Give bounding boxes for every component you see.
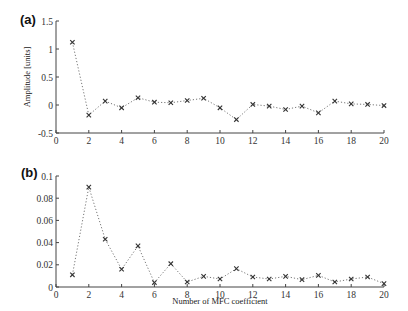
- data-series-b: [70, 185, 386, 286]
- y-tick-label: 0.08: [36, 194, 53, 204]
- x-marker-icon: [218, 277, 222, 281]
- x-marker-icon: [316, 111, 320, 115]
- x-marker-icon: [201, 274, 205, 278]
- x-marker-icon: [87, 113, 91, 117]
- y-tick-label: 1: [48, 45, 53, 55]
- x-tick-label: 4: [119, 136, 124, 146]
- x-tick-label: 6: [152, 290, 157, 300]
- x-marker-icon: [333, 280, 337, 284]
- x-tick-label: 10: [215, 290, 225, 300]
- axes-a: 02468101214161820-0.500.511.5: [38, 17, 389, 147]
- panel-label-b: (b): [21, 165, 38, 180]
- x-marker-icon: [70, 273, 74, 277]
- x-marker-icon: [103, 99, 107, 103]
- y-tick-label: 0.1: [41, 172, 53, 182]
- x-marker-icon: [169, 261, 173, 265]
- x-tick-label: 14: [281, 136, 291, 146]
- x-marker-icon: [218, 106, 222, 110]
- panel-label-a: (a): [20, 12, 36, 27]
- x-marker-icon: [185, 280, 189, 284]
- x-marker-icon: [119, 106, 123, 110]
- x-marker-icon: [316, 273, 320, 277]
- chart-panel-b: (b) Number of MFC coefficient 0246810121…: [21, 165, 389, 306]
- x-marker-icon: [169, 101, 173, 105]
- x-marker-icon: [136, 244, 140, 248]
- x-tick-label: 8: [185, 136, 190, 146]
- x-marker-icon: [70, 40, 74, 44]
- x-marker-icon: [300, 104, 304, 108]
- x-marker-icon: [152, 100, 156, 104]
- x-marker-icon: [349, 102, 353, 106]
- data-series-a: [70, 40, 386, 122]
- x-marker-icon: [283, 274, 287, 278]
- x-tick-label: 0: [54, 290, 59, 300]
- x-tick-label: 8: [185, 290, 190, 300]
- x-tick-label: 0: [54, 136, 59, 146]
- x-tick-label: 2: [86, 290, 91, 300]
- x-tick-label: 2: [86, 136, 91, 146]
- y-tick-label: 1.5: [41, 17, 53, 27]
- x-tick-label: 14: [281, 290, 291, 300]
- x-tick-label: 12: [248, 136, 258, 146]
- x-marker-icon: [119, 267, 123, 271]
- x-marker-icon: [234, 117, 238, 121]
- y-tick-label: 0.5: [41, 73, 53, 83]
- y-tick-label: 0.04: [36, 238, 53, 248]
- figure: (a) Amplitude [units] 02468101214161820-…: [0, 0, 408, 311]
- y-tick-label: 0.02: [36, 260, 53, 270]
- x-marker-icon: [234, 266, 238, 270]
- y-tick-label: 0: [48, 283, 53, 293]
- x-tick-label: 10: [215, 136, 225, 146]
- x-marker-icon: [333, 99, 337, 103]
- x-marker-icon: [267, 277, 271, 281]
- data-line: [72, 42, 384, 119]
- x-tick-label: 20: [379, 290, 389, 300]
- x-tick-label: 12: [248, 290, 258, 300]
- x-tick-label: 4: [119, 290, 124, 300]
- x-tick-label: 18: [346, 136, 356, 146]
- x-marker-icon: [201, 96, 205, 100]
- x-marker-icon: [103, 237, 107, 241]
- y-tick-label: 0.06: [36, 216, 53, 226]
- y-axis-label-a: Amplitude [units]: [22, 46, 32, 107]
- x-marker-icon: [251, 275, 255, 279]
- x-marker-icon: [283, 107, 287, 111]
- x-tick-label: 16: [314, 290, 324, 300]
- y-tick-label: 0: [48, 101, 53, 111]
- data-line: [72, 187, 384, 284]
- chart-panel-a: (a) Amplitude [units] 02468101214161820-…: [20, 12, 389, 146]
- x-marker-icon: [365, 102, 369, 106]
- x-tick-label: 20: [379, 136, 389, 146]
- x-tick-label: 6: [152, 136, 157, 146]
- x-marker-icon: [185, 98, 189, 102]
- y-tick-label: -0.5: [38, 129, 53, 139]
- x-tick-label: 18: [346, 290, 356, 300]
- x-tick-label: 16: [314, 136, 324, 146]
